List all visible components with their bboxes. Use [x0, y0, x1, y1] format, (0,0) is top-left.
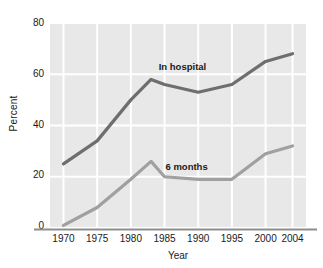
x-axis-title: Year — [50, 250, 306, 261]
series-label-in-hospital: In hospital — [159, 61, 207, 72]
plot-area — [0, 0, 323, 268]
series-label-6-months: 6 months — [165, 161, 207, 172]
x-axis-tick-label: 2004 — [273, 233, 313, 244]
chart-figure: Percent 80 60 40 20 0 In hospital 6 mont… — [0, 0, 323, 268]
